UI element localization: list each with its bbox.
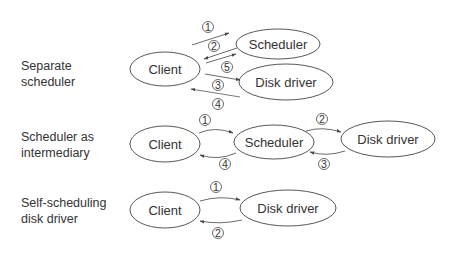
step-badge-2: 2 [209,40,220,52]
step-badge-2: 2 [213,227,224,239]
step-badge-3: 3 [213,79,224,91]
svg-text:2: 2 [215,227,221,239]
node-client: Client [130,192,200,228]
step-badge-4: 4 [213,98,224,110]
step-badge-1: 1 [203,21,214,33]
node-disk-driver: Disk driver [341,121,435,157]
svg-text:4: 4 [222,158,228,170]
svg-text:1: 1 [213,181,219,193]
arrow-step-4 [200,153,236,158]
node-scheduler: Scheduler [234,125,314,159]
arrow-step-3 [205,74,240,80]
svg-text:3: 3 [215,79,221,91]
node-client: Client [130,126,200,162]
node-disk-driver: Disk driver [239,64,333,100]
step-badge-1: 1 [211,181,222,193]
svg-text:2: 2 [319,113,325,125]
svg-text:1: 1 [205,21,211,33]
svg-text:3: 3 [321,158,327,170]
arrow-step-1 [199,130,233,134]
node-scheduler: Scheduler [236,29,320,59]
node-disk-driver: Disk driver [240,190,336,226]
step-badge-5: 5 [222,61,233,73]
node-label: Scheduler [249,37,308,52]
node-label: Client [148,62,182,77]
node-label: Disk driver [257,201,319,216]
node-label: Disk driver [357,132,419,147]
section-separate-scheduler: Client Scheduler Disk driver 1 2 5 [130,21,333,110]
svg-text:4: 4 [215,98,221,110]
section-scheduler-intermediary: Client Scheduler Disk driver 1 2 3 4 [130,113,435,170]
step-badge-2: 2 [317,113,328,125]
step-badge-3: 3 [319,158,330,170]
arrow-step-1 [200,198,240,201]
node-label: Scheduler [245,135,304,150]
node-label: Disk driver [255,75,317,90]
section-self-scheduling: Client Disk driver 1 2 [130,181,336,239]
arrow-step-5 [206,54,236,63]
svg-text:1: 1 [202,114,208,126]
node-label: Client [148,137,182,152]
arrow-step-3 [310,151,345,154]
step-badge-1: 1 [200,114,211,126]
svg-text:2: 2 [211,40,217,52]
arrow-step-2 [200,220,242,223]
step-badge-4: 4 [220,158,231,170]
diagram-canvas: Client Scheduler Disk driver 1 2 5 [0,0,459,255]
node-label: Client [148,203,182,218]
arrow-step-2 [306,129,341,132]
arrow-step-2 [204,48,237,59]
svg-text:5: 5 [224,61,230,73]
node-client: Client [130,52,200,86]
